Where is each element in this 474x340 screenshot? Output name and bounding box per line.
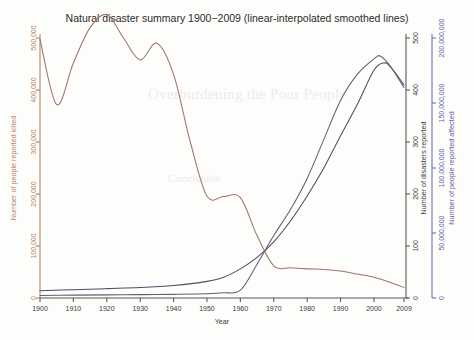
axis-ticklabel-disasters: 300 xyxy=(412,136,419,148)
axis-ticklabel-x: 1910 xyxy=(66,305,82,312)
chart-canvas: Natural disaster summary 1900−2009 (line… xyxy=(0,0,474,340)
axis-ticklabel-affected: 150,000,000 xyxy=(438,83,445,122)
axis-ticklabel-disasters: 400 xyxy=(412,84,419,96)
axis-ticklabel-x: 2009 xyxy=(396,305,412,312)
series-line-affected xyxy=(40,56,404,296)
axis-ticklabel-x: 1990 xyxy=(333,305,349,312)
axis-ticklabel-disasters: 500 xyxy=(412,32,419,44)
axis-label-killed: Number of people reported killed xyxy=(9,116,18,220)
axis-ticklabel-affected: 100,000,000 xyxy=(438,148,445,187)
axis-ticklabel-killed: 0 xyxy=(30,296,37,300)
axis-ticklabel-disasters: 200 xyxy=(412,188,419,200)
axis-ticklabel-x: 1940 xyxy=(166,305,182,312)
axis-ticklabel-disasters: 0 xyxy=(412,296,419,300)
series-line-killed xyxy=(40,14,404,287)
axis-ticklabel-killed: 200,000 xyxy=(30,181,37,206)
axis-ticklabel-disasters: 100 xyxy=(412,240,419,252)
axis-ticklabel-affected: 50,000,000 xyxy=(438,215,445,250)
axis-ticklabel-killed: 400,000 xyxy=(30,77,37,102)
chart-title: Natural disaster summary 1900−2009 (line… xyxy=(66,12,409,24)
axis-ticklabel-killed: 500,000 xyxy=(30,25,37,50)
axis-ticklabel-killed: 100,000 xyxy=(30,233,37,258)
chart-series xyxy=(40,14,404,295)
axis-ticklabel-killed: 300,000 xyxy=(30,129,37,154)
axis-ticklabel-affected: 0 xyxy=(438,296,445,300)
axis-ticklabel-x: 1960 xyxy=(233,305,249,312)
axis-label-disasters: Number of disasters reported xyxy=(419,121,428,214)
axis-ticklabel-affected: 200,000,000 xyxy=(438,18,445,57)
axis-label-affected: Number of people reported affected xyxy=(447,111,456,224)
axis-ticklabel-x: 1970 xyxy=(266,305,282,312)
series-line-disasters xyxy=(40,63,404,291)
axis-ticklabel-x: 1930 xyxy=(132,305,148,312)
axis-ticklabel-x: 1920 xyxy=(99,305,115,312)
axis-ticklabel-x: 1950 xyxy=(199,305,215,312)
axis-ticklabel-x: 1980 xyxy=(299,305,315,312)
axis-ticklabel-x: 1900 xyxy=(32,305,48,312)
axis-ticklabel-x: 2000 xyxy=(366,305,382,312)
chart-figure: Overburdening the Poor People Conclusion… xyxy=(0,0,474,340)
axis-label-x: Year xyxy=(215,317,230,326)
